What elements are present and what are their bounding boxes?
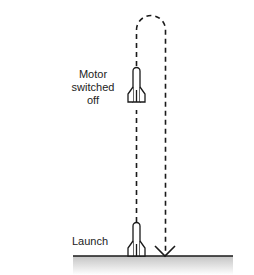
label-line-2: switched (66, 81, 120, 94)
label-line-3: off (66, 94, 120, 107)
motor-switched-off-label: Motor switched off (66, 68, 120, 107)
rocket-launch-icon (128, 223, 145, 256)
flight-path (137, 15, 166, 255)
rocket-motor-off-icon (128, 68, 145, 103)
label-line-1: Motor (66, 68, 120, 81)
launch-label: Launch (72, 235, 108, 248)
ground (73, 256, 233, 275)
ascent-path-upper-and-arc (137, 15, 166, 255)
rocket-flight-diagram (0, 0, 254, 275)
